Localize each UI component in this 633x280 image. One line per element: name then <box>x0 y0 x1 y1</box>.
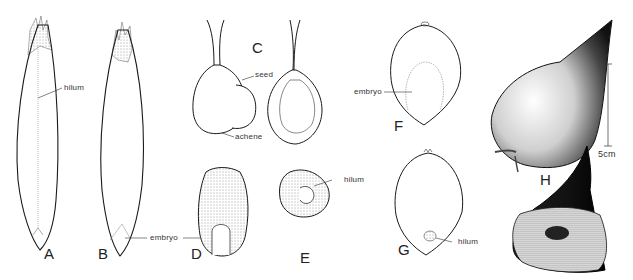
callout-a-hilum: hilum <box>64 84 84 92</box>
panel-label-d: D <box>191 246 202 261</box>
callout-c-achene: achene <box>235 133 262 141</box>
panel-f-seed <box>384 22 461 125</box>
callout-e-hilum: hilum <box>344 176 364 184</box>
panel-d-seed <box>198 168 248 257</box>
botanical-plate <box>0 0 633 280</box>
callout-c-seed: seed <box>255 71 273 79</box>
panel-b-grain <box>101 22 200 256</box>
panel-label-c: C <box>252 40 263 55</box>
panel-a-grain <box>17 16 62 250</box>
panel-label-h: H <box>540 172 551 187</box>
scale-bar-label: 5cm <box>598 150 616 159</box>
panel-label-e: E <box>300 250 310 265</box>
panel-g-seed <box>395 149 463 255</box>
panel-label-g: G <box>398 242 410 257</box>
callout-f-embryo: embryo <box>354 88 382 96</box>
panel-label-f: F <box>394 118 403 133</box>
panel-label-b: B <box>98 246 108 261</box>
callout-bd-embryo: embryo <box>150 234 178 242</box>
panel-e-seed <box>279 170 332 217</box>
panel-label-a: A <box>44 246 54 261</box>
callout-g-hilum: hilum <box>458 238 478 246</box>
panel-h-fruit <box>491 20 612 272</box>
